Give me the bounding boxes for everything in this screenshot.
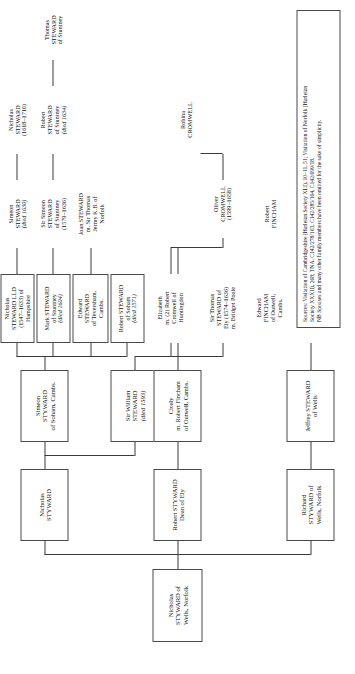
node-label: RichardSTYWARD ofWells, Norfolk [298, 483, 322, 526]
node-label: RobinaCROMWELL [178, 100, 194, 139]
node-label: SimeonSTYWARDof Soham, Cambs. [32, 380, 56, 433]
sources-line-3: NB Spouses and many other family members… [315, 16, 322, 322]
connector-gen2-c [310, 541, 311, 555]
connector-gen4-edward [90, 343, 91, 357]
connector-simeon-out [44, 357, 45, 370]
connector-elizabeth-oliver-h [170, 248, 171, 274]
node-cicely-fincham[interactable]: Cicelym. Robert Finchamof Outwell, Cambs… [153, 370, 201, 442]
node-robert-fincham[interactable]: RobertFINCHAM [253, 180, 287, 248]
connector-gen2-b [177, 541, 178, 555]
connector-william-stub [134, 356, 170, 357]
node-sir-simeon-steward-stuntney[interactable]: Sir SimeonSTEWARDof Stuntney(1579–1636) [34, 180, 72, 248]
connector-richard-jeffrey [310, 442, 311, 469]
node-label: NicholasSTEWARD(1618–1710) [6, 102, 29, 138]
sources-note: Sources: Visitation of Cambridgeshire (H… [296, 10, 340, 328]
node-label: NicholasSTYWARD ofWells, Norfolk [165, 584, 189, 627]
node-nicholas-steward-lld-hampshire[interactable]: NicholasSTEWARD LLD(1547–1633) ofHampshi… [0, 274, 34, 343]
node-edward-fincham-outwell[interactable]: EdwardFINCHAMof Outwell,Cambs. [249, 273, 289, 343]
node-label: Robert STEWARDof Soham(died 1571) [116, 283, 139, 335]
node-elizabeth-cromwell[interactable]: Elizabethm. (2) RobertCromwell ofHunting… [150, 273, 190, 343]
connector-william-out [134, 357, 135, 370]
connector-simeon-nicholas1618 [16, 154, 17, 180]
node-richard-styward-wells[interactable]: RichardSTYWARD ofWells, Norfolk [286, 469, 334, 541]
node-label: RobertFINCHAM [262, 198, 278, 231]
sources-line-2: Society XXXII), 268; TNA, C142/278/103, … [308, 16, 315, 322]
node-label: Robert STYWARDDean of Ely [169, 477, 186, 532]
node-label: Sir SimeonSTEWARDof Stuntney(1579–1636) [38, 196, 68, 232]
connector-gen2-a [44, 541, 45, 555]
connector-gen4-spine [16, 356, 126, 357]
node-joan-steward-jermy[interactable]: Joan STEWARDm. Sir ThomasJermy K.B. ofNo… [72, 180, 110, 248]
node-edward-steward-teversham[interactable]: EdwardSTEWARDof Teversham,Cambs. [72, 274, 108, 343]
node-jeffrey-steward-wells[interactable]: Jeffrey STEWARDof Wells [286, 370, 334, 442]
node-sir-william-steward[interactable]: Sir WilliamSTEWARD(died 1593) [110, 370, 158, 442]
connector-nicholas-out [44, 456, 45, 469]
diagram-stage: NicholasSTYWARD ofWells, Norfolk Nichola… [0, 0, 355, 674]
node-simeon-steward[interactable]: SimeonSTEWARD(died 1630) [0, 180, 34, 248]
node-label: NicholasSTEWARD LLD(1547–1633) ofHampshi… [2, 285, 32, 332]
connector-sirsimeon-robert [52, 154, 53, 180]
node-label: Elizabethm. (2) RobertCromwell ofHunting… [155, 289, 185, 327]
connector-gen4-robert-soham [126, 343, 127, 357]
connector-gen3-william [134, 442, 135, 456]
connector-gen4-elizabeth [170, 343, 171, 357]
connector-robina-v [200, 153, 222, 154]
connector-edward-joan [90, 248, 91, 274]
node-robina-cromwell[interactable]: RobinaCROMWELL [170, 86, 202, 154]
node-label: Sir WilliamSTEWARD(died 1593) [122, 388, 146, 423]
connector-robert-cicely [177, 442, 178, 469]
connector-root-out [177, 555, 178, 569]
node-robert-steward-stuntney[interactable]: RobertSTEWARDof Stuntney(died 1634) [34, 86, 72, 154]
connector-robert-thomas [52, 60, 53, 86]
connector-gen4-mark [52, 343, 53, 357]
connector-gen3-spine-top [44, 455, 134, 456]
node-label: SimeonSTEWARD(died 1630) [6, 197, 29, 230]
sources-line-1: Sources: Visitation of Cambridgeshire (H… [301, 16, 308, 322]
connector-gen4-thomas [222, 343, 223, 357]
node-label: Cicelym. Robert Finchamof Outwell, Cambs… [165, 379, 189, 433]
node-oliver-cromwell[interactable]: OliverCROMWELL(1599–1658) [204, 170, 240, 238]
connector-nicholaslld-simeon [16, 248, 17, 274]
node-label: Sir ThomasSTEWARD ofEly (1574–1636)m. Br… [207, 285, 237, 331]
connector-edwardf-robertf [177, 248, 178, 274]
node-sir-thomas-steward-ely[interactable]: Sir ThomasSTEWARD ofEly (1574–1636)m. Br… [202, 273, 242, 343]
node-label: EdwardSTEWARDof Teversham,Cambs. [75, 289, 105, 328]
node-robert-steward-soham[interactable]: Robert STEWARDof Soham(died 1571) [110, 274, 144, 343]
node-label: ThomasSTEWARDof Stuntney [42, 13, 65, 46]
node-label: RobertSTEWARDof Stuntney(died 1634) [38, 103, 68, 136]
node-nicholas-styward-wells[interactable]: NicholasSTYWARD ofWells, Norfolk [152, 569, 202, 642]
node-label: Joan STEWARDm. Sir ThomasJermy K.B. ofNo… [76, 191, 106, 237]
node-label: OliverCROMWELL(1599–1658) [211, 184, 234, 223]
connector-mark-sirsimeon [52, 248, 53, 274]
node-nicholas-steward-1618[interactable]: NicholasSTEWARD(1618–1710) [0, 86, 34, 154]
node-thomas-steward-stuntney[interactable]: ThomasSTEWARDof Stuntney [34, 0, 72, 60]
node-label: NicholasSTYWARD [36, 487, 53, 523]
node-label: Jeffrey STEWARDof Wells [302, 379, 319, 434]
connector-gen4-nicholas-lld [16, 343, 17, 357]
node-simeon-styward-soham[interactable]: SimeonSTYWARDof Soham, Cambs. [20, 370, 68, 442]
family-tree-canvas: NicholasSTYWARD ofWells, Norfolk Nichola… [0, 0, 355, 674]
node-label: Mark STEWARDof Stuntney(died 1604) [42, 284, 65, 332]
connector-oliver-in [222, 238, 223, 248]
node-robert-styward-dean-of-ely[interactable]: Robert STYWARDDean of Ely [153, 469, 201, 541]
connector-gen3-simeon [44, 442, 45, 456]
connector-cicely-edward [177, 343, 178, 370]
node-nicholas-styward[interactable]: NicholasSTYWARD [20, 469, 68, 541]
node-label: EdwardFINCHAMof Outwell,Cambs. [254, 292, 284, 325]
connector-jeffrey-arthur [310, 343, 311, 370]
node-mark-steward-stuntney[interactable]: Mark STEWARDof Stuntney(died 1604) [36, 274, 70, 343]
